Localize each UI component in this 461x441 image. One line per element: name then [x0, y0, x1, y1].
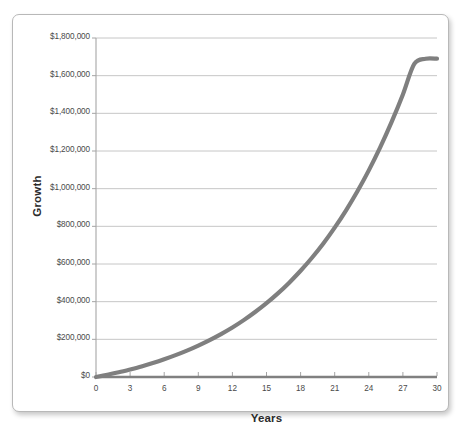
y-tick-label-text: $800,000: [28, 220, 90, 229]
x-tick-label: 30: [423, 384, 451, 393]
y-tick-label: $1,600,000: [24, 70, 90, 82]
y-tick-label: $800,000: [24, 220, 90, 232]
y-tick-label: $600,000: [24, 258, 90, 270]
x-tick-label: 3: [116, 384, 144, 393]
x-tick-label: 18: [287, 384, 315, 393]
y-tick-label-text: $1,600,000: [28, 70, 90, 79]
y-tick-label-text: $0: [28, 371, 90, 380]
x-tick-label: 24: [355, 384, 383, 393]
x-tick-label: 12: [218, 384, 246, 393]
y-tick-label: $1,800,000: [24, 32, 90, 44]
x-tick-label: 6: [150, 384, 178, 393]
y-tick-label: $400,000: [24, 296, 90, 308]
y-tick-label: $1,400,000: [24, 107, 90, 119]
y-tick-label: $1,200,000: [24, 145, 90, 157]
y-tick-label-text: $400,000: [28, 296, 90, 305]
x-tick-label: 9: [184, 384, 212, 393]
x-tick-label: 15: [253, 384, 281, 393]
y-tick-label-text: $600,000: [28, 258, 90, 267]
y-tick-label-text: $1,800,000: [28, 32, 90, 41]
y-tick-label-text: $1,200,000: [28, 145, 90, 154]
y-tick-label-text: $200,000: [28, 333, 90, 342]
y-tick-label: $200,000: [24, 333, 90, 345]
y-tick-label-text: $1,400,000: [28, 107, 90, 116]
x-tick-label: 21: [321, 384, 349, 393]
y-tick-label: $1,000,000: [24, 183, 90, 195]
x-axis-title: Years: [96, 412, 437, 424]
y-tick-label-text: $1,000,000: [28, 183, 90, 192]
x-tick-label: 27: [389, 384, 417, 393]
y-tick-label: $0: [24, 371, 90, 383]
x-tick-label: 0: [82, 384, 110, 393]
